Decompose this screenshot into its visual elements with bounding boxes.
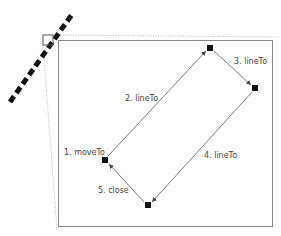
step-label-5: 5. close [98, 186, 129, 195]
projection-line-left [43, 45, 57, 230]
canvas-frame [59, 41, 273, 227]
point-3 [252, 85, 258, 91]
step-label-3: 3. lineTo [234, 57, 267, 66]
step-label-1: 1. moveTo [64, 148, 105, 157]
projection-line-top [53, 35, 279, 37]
point-2 [207, 45, 213, 51]
path-diagram: 1. moveTo 2. lineTo 3. lineTo 4. lineTo … [0, 0, 281, 236]
step-label-4: 4. lineTo [204, 151, 237, 160]
step-label-2: 2. lineTo [125, 94, 158, 103]
point-4 [145, 202, 151, 208]
point-1 [102, 157, 108, 163]
